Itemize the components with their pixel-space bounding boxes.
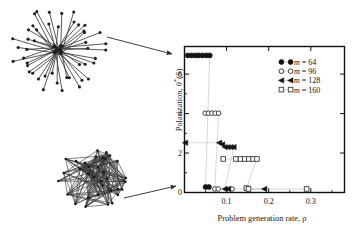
x-axis-ticklabels: 0.10.20.3	[222, 197, 316, 206]
legend-label: m = 96	[294, 67, 316, 76]
figure-container: 0.10.20.3 0246 m = 64m = 96m = 128m = 16…	[0, 0, 352, 241]
scatter-plot-svg: 0.10.20.3 0246 m = 64m = 96m = 128m = 16…	[176, 42, 348, 214]
svg-text:0.1: 0.1	[222, 197, 232, 206]
legend-label: m = 64	[294, 58, 316, 67]
data-point	[304, 187, 309, 192]
x-axis-title: Problem generation rate, ρ	[174, 214, 350, 223]
legend-marker	[279, 87, 284, 92]
legend-label: m = 128	[294, 76, 320, 85]
y-axis-title-text: Polarization,	[175, 86, 184, 131]
data-point	[216, 187, 221, 192]
legend-label: m = 160	[294, 86, 320, 95]
scatter-plot-panel: 0.10.20.3 0246 m = 64m = 96m = 128m = 16…	[176, 42, 348, 196]
y-axis-title-arg: (S)	[175, 69, 184, 79]
data-point	[246, 187, 251, 192]
y-axis-title-symbol: θ	[175, 82, 184, 86]
plot-frame	[185, 47, 345, 193]
y-axis-title: Polarization, θ*(S)	[172, 20, 184, 180]
data-point	[221, 157, 226, 162]
data-point	[206, 184, 211, 189]
data-point	[255, 157, 260, 162]
legend-marker	[279, 60, 284, 65]
mesh-network-svg	[28, 118, 152, 230]
legend-marker	[279, 69, 284, 74]
data-point	[207, 53, 212, 58]
svg-text:0.3: 0.3	[306, 197, 316, 206]
svg-text:0: 0	[178, 188, 182, 197]
legend-marker	[288, 87, 293, 92]
data-point	[234, 157, 239, 162]
y-axis-title-star: *	[172, 79, 179, 82]
star-network-image	[4, 2, 120, 106]
data-point	[216, 111, 221, 116]
legend-marker	[288, 60, 293, 65]
star-network-svg	[4, 2, 120, 106]
mesh-network-image	[28, 118, 152, 230]
svg-text:0.2: 0.2	[264, 197, 274, 206]
legend-marker	[288, 69, 293, 74]
